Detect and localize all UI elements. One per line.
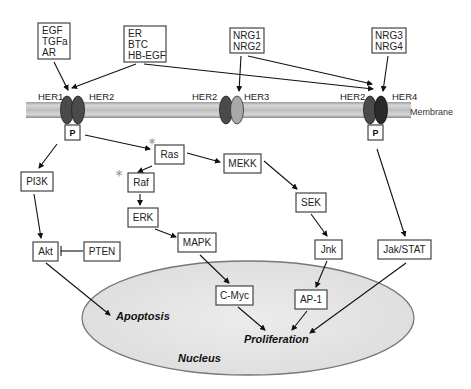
arrow-p-ras (85, 135, 150, 149)
node-ras: Ras (155, 145, 184, 164)
node-raf: Raf (128, 173, 154, 192)
arrow-lig3-her4 (248, 56, 372, 84)
ligand-box-egf-tgfa-ar: EGF TGFa AR (38, 23, 70, 59)
arrow-ras-mekk (187, 153, 220, 162)
ligand-box-er-btc-hbegf: ER BTC HB-EGF (124, 26, 166, 62)
svg-text:HB-EGF: HB-EGF (128, 50, 166, 61)
arrow-ras-raf (138, 166, 152, 172)
svg-text:Ras: Ras (161, 149, 179, 160)
her2-label-c: HER2 (340, 91, 365, 102)
node-pten: PTEN (84, 242, 120, 261)
node-sek: SEK (296, 193, 326, 212)
arrow-pi3k-akt (34, 194, 41, 238)
arrow-mekk-sek (264, 161, 297, 189)
svg-text:P: P (372, 128, 378, 138)
node-jakstat: Jak/STAT (378, 240, 431, 259)
her3-label: HER3 (244, 91, 269, 102)
node-cmyc: C-Myc (216, 286, 253, 305)
arrow-lig1-her1 (54, 62, 68, 90)
mutation-star-raf: * (116, 167, 123, 183)
pathway-diagram: Nucleus Membrane EGF TGFa AR ER BTC HB-E… (0, 0, 471, 389)
node-erk: ERK (128, 208, 158, 227)
svg-text:NRG1: NRG1 (233, 30, 261, 41)
node-ap1: AP-1 (295, 290, 327, 309)
svg-text:BTC: BTC (128, 39, 148, 50)
inhibition-pten-akt (61, 246, 83, 256)
phospho-box-her1: P (65, 125, 80, 140)
node-pi3k: PI3K (21, 172, 53, 191)
svg-text:ERK: ERK (133, 212, 154, 223)
svg-text:TGFa: TGFa (42, 36, 68, 47)
svg-text:NRG3: NRG3 (375, 30, 403, 41)
svg-text:NRG4: NRG4 (375, 41, 403, 52)
her4-label: HER4 (392, 91, 417, 102)
svg-text:SEK: SEK (301, 197, 321, 208)
svg-text:Jak/STAT: Jak/STAT (383, 244, 425, 255)
arrow-sek-jnk (311, 214, 327, 236)
receptor-dimer-her1-her2 (61, 96, 85, 124)
svg-text:ER: ER (128, 28, 142, 39)
arrow-akt-apoptosis (46, 263, 110, 315)
arrow-lig2-her1 (72, 64, 136, 88)
svg-text:PTEN: PTEN (89, 246, 116, 257)
arrow-p-pi3k (39, 144, 57, 168)
svg-text:MAPK: MAPK (183, 237, 212, 248)
nucleus-label: Nucleus (178, 352, 221, 364)
ligand-box-nrg3-nrg4: NRG3 NRG4 (372, 28, 406, 53)
receptor-dimer-her2-her3 (220, 96, 244, 124)
svg-text:P: P (69, 128, 75, 138)
ligand-box-nrg1-nrg2: NRG1 NRG2 (230, 28, 264, 53)
svg-text:C-Myc: C-Myc (220, 290, 249, 301)
svg-text:MEKK: MEKK (228, 158, 257, 169)
apoptosis-label: Apoptosis (115, 310, 170, 322)
svg-text:AP-1: AP-1 (300, 294, 323, 305)
proliferation-label: Proliferation (244, 333, 309, 345)
arrow-lig3-her3 (239, 56, 241, 91)
arrow-p-jakstat (377, 149, 405, 236)
node-mekk: MEKK (224, 154, 261, 173)
node-jnk: Jnk (315, 240, 342, 259)
node-mapk: MAPK (178, 233, 216, 252)
node-akt: Akt (33, 242, 58, 261)
svg-text:AR: AR (42, 47, 56, 58)
svg-text:EGF: EGF (42, 25, 63, 36)
phospho-box-her4: P (368, 125, 383, 140)
receptor-dimer-her2-her4 (364, 96, 388, 124)
her1-label: HER1 (38, 91, 63, 102)
svg-text:NRG2: NRG2 (233, 41, 261, 52)
membrane-label: Membrane (410, 107, 453, 117)
her2-label-a: HER2 (89, 91, 114, 102)
svg-text:PI3K: PI3K (26, 176, 48, 187)
her2-label-b: HER2 (192, 91, 217, 102)
svg-text:Akt: Akt (38, 246, 53, 257)
arrow-lig4-her4 (383, 56, 388, 91)
arrow-erk-mapk (155, 229, 176, 237)
svg-text:Raf: Raf (133, 177, 149, 188)
svg-text:Jnk: Jnk (321, 244, 338, 255)
